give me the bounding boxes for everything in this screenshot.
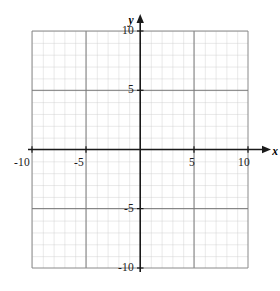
y-tick-label-neg10: -10: [118, 262, 134, 274]
x-tick-label-neg10: -10: [14, 157, 30, 169]
x-tick-label-neg5: -5: [74, 157, 84, 169]
x-tick-label-10: 10: [238, 157, 250, 169]
x-tick-label-5: 5: [189, 157, 195, 169]
y-tick-label-neg5: -5: [124, 203, 134, 215]
y-tick-label-5: 5: [128, 85, 134, 97]
coordinate-plane-figure: 10 5 -5 -10 -10 -5 5 10 y x: [0, 0, 280, 291]
y-tick-label-10: 10: [122, 25, 134, 37]
y-axis-label: y: [128, 15, 133, 27]
grid-svg: [0, 0, 280, 291]
x-axis-label: x: [272, 146, 278, 158]
